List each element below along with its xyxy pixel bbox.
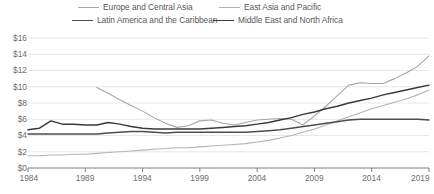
- chart-legend: Europe and Central Asia East Asia and Pa…: [0, 0, 434, 30]
- legend-swatch-icon: [78, 7, 99, 8]
- legend-label: Middle East and North Africa: [238, 16, 343, 25]
- legend-item-middle-east-and-north-africa[interactable]: Middle East and North Africa: [213, 16, 343, 25]
- legend-swatch-icon: [72, 20, 93, 21]
- x-axis-tick-label: 1984: [20, 174, 39, 182]
- legend-item-europe-and-central-asia[interactable]: Europe and Central Asia: [78, 3, 193, 12]
- chart-plot-area: $0$2$4$6$8$10$12$14$16 19841989199419992…: [0, 30, 434, 194]
- x-axis-tick-label: 2019: [411, 174, 430, 182]
- x-axis-tick-label: 1999: [190, 174, 209, 182]
- legend-swatch-icon: [219, 7, 240, 8]
- chart-root: Europe and Central Asia East Asia and Pa…: [0, 0, 434, 194]
- x-axis-tick-label: 1989: [76, 174, 95, 182]
- legend-item-east-asia-and-pacific[interactable]: East Asia and Pacific: [219, 3, 321, 12]
- legend-label: Europe and Central Asia: [103, 3, 193, 12]
- x-axis-tick-labels: 19841989199419992004200920142019: [0, 30, 434, 194]
- legend-label: Latin America and the Caribbean: [97, 16, 217, 25]
- x-axis-tick-label: 2004: [248, 174, 267, 182]
- x-axis-tick-label: 1994: [133, 174, 152, 182]
- x-axis-tick-label: 2014: [362, 174, 381, 182]
- legend-swatch-icon: [213, 20, 234, 21]
- legend-item-latin-america-and-the-caribbean[interactable]: Latin America and the Caribbean: [72, 16, 217, 25]
- x-axis-tick-label: 2009: [305, 174, 324, 182]
- legend-label: East Asia and Pacific: [244, 3, 321, 12]
